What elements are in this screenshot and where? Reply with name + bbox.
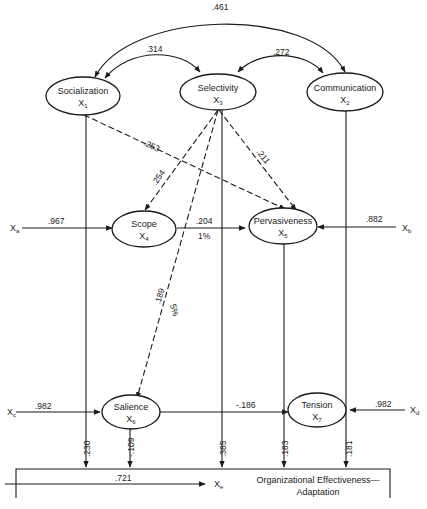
coef-sel-salience: .189 (152, 287, 166, 306)
coef-sel-scope: .254 (149, 168, 167, 188)
coef-xd-tension: .982 (375, 399, 392, 409)
coef-scope-perv: .204 (196, 216, 213, 226)
residual-xd: Xd (410, 405, 419, 416)
correlation-sel-comm (238, 56, 323, 73)
coef-salience-outcome: -.109 (126, 437, 136, 457)
node-label-tension: Tension (301, 400, 332, 410)
node-label-communication: Communication (314, 83, 377, 93)
coef-comm-outcome: .181 (344, 440, 354, 457)
coef-soc-outcome: .230 (82, 440, 92, 457)
sig-scope-perv: 1% (198, 231, 211, 241)
outcome-label-line1: Organizational Effectiveness— (257, 475, 380, 485)
coef-sel-perv: .211 (254, 147, 272, 166)
coef-xb-perv: .882 (366, 214, 383, 224)
coef-soc-sel: .314 (146, 44, 163, 54)
coef-perv-outcome: .183 (280, 440, 290, 457)
coef-sel-outcome: .385 (218, 440, 228, 457)
path-sel-salience (137, 110, 218, 398)
coef-xc-salience: .982 (35, 401, 52, 411)
coef-xa-scope: .967 (48, 216, 65, 226)
path-soc-perv (84, 115, 285, 209)
coef-soc-perv: .253 (142, 138, 161, 154)
node-label-socialization: Socialization (58, 86, 109, 96)
node-label-selectivity: Selectivity (198, 83, 239, 93)
path-sel-perv (219, 110, 296, 210)
node-label-salience: Salience (114, 402, 149, 412)
residual-xb: Xb (402, 223, 412, 234)
path-sel-scope (145, 110, 218, 210)
residual-xa: Xa (10, 223, 20, 234)
correlation-soc-sel (105, 55, 200, 78)
residual-xe: Xe (214, 479, 224, 490)
coef-soc-comm: .461 (212, 2, 229, 12)
coef-xe-outcome: .721 (115, 473, 132, 483)
residual-xc: Xc (7, 407, 16, 418)
node-pervasiveness (249, 208, 317, 244)
correlation-soc-comm (95, 24, 345, 77)
coef-sel-comm: .272 (273, 47, 290, 57)
node-socialization (46, 77, 120, 115)
coef-salience-tension: -.186 (236, 400, 256, 410)
node-label-pervasiveness: Pervasiveness (254, 216, 313, 226)
path-diagram: Socialization X1 Selectivity X3 Communic… (0, 0, 427, 509)
outcome-label-line2: Adaptation (296, 487, 339, 497)
node-scope (112, 211, 176, 247)
sig-sel-salience: 5% (168, 303, 181, 318)
node-label-scope: Scope (131, 219, 157, 229)
